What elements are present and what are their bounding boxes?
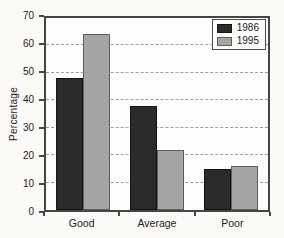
- x-axis: GoodAveragePoor: [44, 217, 270, 229]
- bar-1986-average: [130, 106, 157, 210]
- x-category-label-poor: Poor: [195, 217, 270, 229]
- legend: 19861995: [212, 19, 266, 50]
- y-tick-40: [39, 99, 44, 101]
- y-tick-label-10: 10: [23, 179, 34, 189]
- y-tick-50: [39, 71, 44, 73]
- x-tick-3: [269, 212, 271, 216]
- bar-1995-average: [157, 150, 184, 210]
- x-category-label-average: Average: [119, 217, 194, 229]
- legend-label-1995: 1995: [237, 36, 259, 46]
- y-axis-title: Percentage: [8, 87, 19, 141]
- y-tick-30: [39, 127, 44, 129]
- bar-chart-figure: 010203040506070 Percentage GoodAveragePo…: [0, 0, 284, 238]
- y-tick-label-60: 60: [23, 39, 34, 49]
- y-tick-label-0: 0: [28, 207, 34, 217]
- y-tick-label-20: 20: [23, 151, 34, 161]
- y-tick-label-40: 40: [23, 95, 34, 105]
- y-tick-10: [39, 183, 44, 185]
- bar-1986-good: [56, 78, 83, 210]
- legend-swatch-1995: [217, 37, 232, 46]
- x-tick-1: [118, 212, 120, 216]
- bar-1995-poor: [231, 166, 258, 210]
- bar-1995-good: [83, 34, 110, 210]
- bar-group-good: [46, 18, 120, 210]
- bar-group-average: [120, 18, 194, 210]
- legend-label-1986: 1986: [237, 23, 259, 33]
- legend-item-1986: 1986: [217, 23, 259, 33]
- x-category-label-good: Good: [44, 217, 119, 229]
- y-tick-label-30: 30: [23, 123, 34, 133]
- y-tick-20: [39, 155, 44, 157]
- bar-1986-poor: [204, 169, 231, 210]
- y-tick-label-70: 70: [23, 11, 34, 21]
- y-tick-label-50: 50: [23, 67, 34, 77]
- y-tick-60: [39, 43, 44, 45]
- legend-swatch-1986: [217, 24, 232, 33]
- x-tick-0: [43, 212, 45, 216]
- legend-item-1995: 1995: [217, 36, 259, 46]
- y-tick-70: [39, 15, 44, 17]
- x-tick-2: [194, 212, 196, 216]
